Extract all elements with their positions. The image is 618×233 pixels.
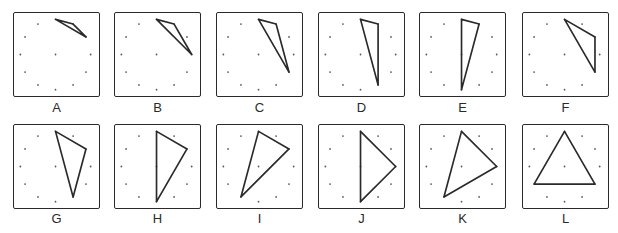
peg-dot	[581, 196, 583, 198]
triangle	[565, 19, 595, 72]
peg-dot	[37, 84, 39, 86]
panel-label: J	[318, 212, 405, 226]
peg-dot	[599, 54, 601, 56]
peg-dot	[491, 183, 493, 185]
peg-dot	[227, 183, 229, 185]
peg-dot	[443, 84, 445, 86]
panel-a	[13, 12, 100, 97]
center-peg-dot	[564, 166, 566, 168]
geoboard	[217, 125, 302, 208]
peg-dot	[24, 36, 26, 38]
geoboard	[523, 13, 608, 96]
peg-dot	[533, 148, 535, 150]
peg-dot	[258, 201, 260, 203]
peg-dot	[186, 183, 188, 185]
geoboard	[115, 13, 200, 96]
peg-dot	[288, 36, 290, 38]
peg-dot	[461, 201, 463, 203]
geoboard	[14, 125, 99, 208]
peg-dot	[138, 196, 140, 198]
center-peg-dot	[258, 166, 260, 168]
geoboard	[319, 13, 404, 96]
geoboard-triangle-figure: ABCDEFGHIJKL	[0, 0, 618, 233]
geoboard	[217, 13, 302, 96]
peg-dot	[430, 148, 432, 150]
peg-dot	[342, 196, 344, 198]
geoboard	[420, 125, 505, 208]
peg-dot	[85, 71, 87, 73]
center-peg-dot	[55, 166, 57, 168]
triangle	[462, 19, 480, 89]
center-peg-dot	[564, 54, 566, 56]
panel-b	[114, 12, 201, 97]
peg-dot	[191, 166, 193, 168]
center-peg-dot	[55, 54, 57, 56]
peg-dot	[425, 166, 427, 168]
peg-dot	[156, 89, 158, 91]
panel-l	[522, 124, 609, 209]
peg-dot	[24, 183, 26, 185]
geoboard	[14, 13, 99, 96]
peg-dot	[85, 183, 87, 185]
panel-label: H	[114, 212, 201, 226]
geoboard	[523, 125, 608, 208]
peg-dot	[72, 135, 74, 137]
peg-dot	[227, 71, 229, 73]
panel-label: C	[216, 101, 303, 115]
peg-dot	[377, 196, 379, 198]
triangle	[157, 131, 187, 201]
triangle	[56, 19, 86, 37]
panel-f	[522, 12, 609, 97]
panel-d	[318, 12, 405, 97]
panel-k	[419, 124, 506, 209]
peg-dot	[395, 54, 397, 56]
peg-dot	[443, 23, 445, 25]
peg-dot	[546, 196, 548, 198]
peg-dot	[24, 71, 26, 73]
peg-dot	[430, 183, 432, 185]
peg-dot	[138, 135, 140, 137]
peg-dot	[125, 36, 127, 38]
peg-dot	[546, 135, 548, 137]
peg-dot	[581, 135, 583, 137]
geoboard	[420, 13, 505, 96]
peg-dot	[120, 166, 122, 168]
peg-dot	[581, 84, 583, 86]
peg-dot	[90, 54, 92, 56]
peg-dot	[324, 54, 326, 56]
peg-dot	[240, 23, 242, 25]
peg-dot	[430, 71, 432, 73]
panel-label: A	[13, 101, 100, 115]
peg-dot	[599, 166, 601, 168]
panel-h	[114, 124, 201, 209]
peg-dot	[258, 89, 260, 91]
panel-label: L	[522, 212, 609, 226]
peg-dot	[90, 166, 92, 168]
peg-dot	[55, 201, 57, 203]
peg-dot	[329, 71, 331, 73]
peg-dot	[275, 84, 277, 86]
center-peg-dot	[461, 166, 463, 168]
panel-i	[216, 124, 303, 209]
triangle	[534, 131, 595, 184]
peg-dot	[37, 23, 39, 25]
peg-dot	[222, 166, 224, 168]
triangle	[241, 131, 289, 197]
peg-dot	[24, 148, 26, 150]
peg-dot	[227, 148, 229, 150]
peg-dot	[564, 201, 566, 203]
peg-dot	[275, 196, 277, 198]
peg-dot	[390, 71, 392, 73]
peg-dot	[37, 196, 39, 198]
peg-dot	[125, 183, 127, 185]
peg-dot	[173, 196, 175, 198]
peg-dot	[390, 148, 392, 150]
peg-dot	[546, 84, 548, 86]
peg-dot	[528, 54, 530, 56]
peg-dot	[19, 166, 21, 168]
peg-dot	[546, 23, 548, 25]
peg-dot	[430, 36, 432, 38]
panel-label: D	[318, 101, 405, 115]
panel-label: K	[419, 212, 506, 226]
peg-dot	[329, 36, 331, 38]
